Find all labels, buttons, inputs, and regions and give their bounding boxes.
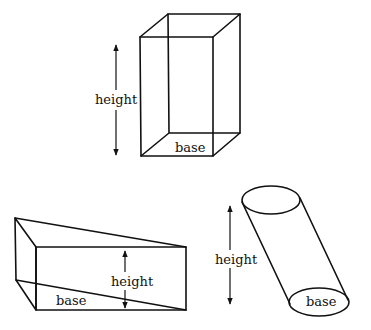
tri-diagonal-edge <box>16 280 186 310</box>
height-label: height <box>95 92 138 107</box>
cylinder-top-ellipse <box>242 186 300 214</box>
tri-end-face <box>15 218 36 310</box>
box-front-face <box>140 37 213 156</box>
height-label: height <box>111 274 154 289</box>
solids-diagram: height base height base height base <box>0 0 371 330</box>
height-label: height <box>215 252 258 267</box>
rectangular-prism: height base <box>95 14 240 156</box>
base-label: base <box>175 140 206 155</box>
tri-top-edge <box>15 218 186 247</box>
box-top-face <box>140 14 240 37</box>
triangular-prism: height base <box>15 218 186 310</box>
box-hidden-edges <box>141 14 240 156</box>
cylinder-right-side <box>300 198 348 300</box>
oblique-cylinder: height base <box>214 186 349 316</box>
box-right-back-edge <box>213 14 240 156</box>
base-label: base <box>306 294 337 309</box>
base-label: base <box>56 293 87 308</box>
